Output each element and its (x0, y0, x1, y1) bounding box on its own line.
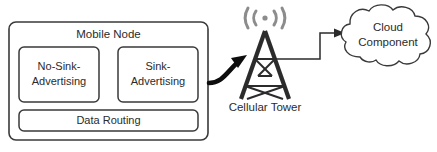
cloud-component-label-line1: Cloud (373, 21, 403, 33)
tower-brace-upper-b (258, 59, 275, 76)
sink-advertising-label-line2: Advertising (131, 75, 185, 87)
cloud-component-group[interactable]: Cloud Component (341, 5, 430, 66)
sink-advertising-label-line1: Sink- (145, 60, 170, 72)
module-no-sink-advertising[interactable]: No-Sink- Advertising (19, 47, 99, 102)
wave-arc-right-inner (274, 11, 276, 25)
tower-to-cloud-line (275, 33, 336, 59)
cellular-tower-label: Cellular Tower (229, 101, 302, 113)
mobile-node-title: Mobile Node (76, 28, 141, 40)
mobile-node-group[interactable]: Mobile Node No-Sink- Advertising Sink- A… (9, 22, 208, 140)
cloud-component-label-line2: Component (358, 36, 418, 48)
wave-arc-left-inner (254, 11, 256, 25)
architecture-diagram: Mobile Node No-Sink- Advertising Sink- A… (0, 0, 437, 152)
connection-tower-to-cloud (275, 29, 345, 60)
radio-waves-icon (245, 8, 284, 28)
tower-brace-upper-a (255, 59, 272, 76)
diagram-canvas: Mobile Node No-Sink- Advertising Sink- A… (0, 0, 437, 152)
connection-mobile-to-tower (209, 55, 247, 83)
module-sink-advertising[interactable]: Sink- Advertising (118, 47, 198, 102)
wave-arc-right-outer (282, 8, 285, 28)
no-sink-advertising-label-line2: Advertising (32, 75, 86, 87)
mobile-to-tower-curve (209, 63, 237, 83)
wave-center-dot (262, 15, 267, 20)
module-data-routing[interactable]: Data Routing (19, 110, 198, 131)
data-routing-label: Data Routing (76, 114, 140, 126)
wave-arc-left-outer (245, 8, 248, 28)
no-sink-advertising-label-line1: No-Sink- (38, 60, 81, 72)
